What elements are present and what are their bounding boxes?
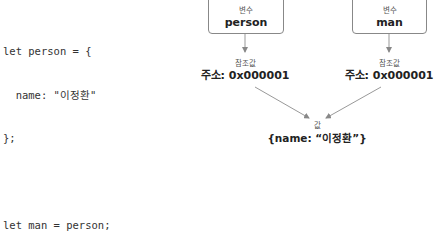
value-content: {name: “이정환”} [262, 131, 372, 145]
reference-label: 참조값 [190, 59, 300, 69]
code-line: let man = person; [3, 218, 110, 233]
arrow-ref1-to-value [255, 87, 309, 118]
reference-person: 참조값 주소: 0x000001 [190, 59, 300, 83]
reference-label: 참조값 [334, 59, 438, 69]
variable-label: 변수 [353, 6, 426, 16]
variable-name: man [353, 16, 426, 30]
variable-box-person: 변수 person [208, 0, 284, 34]
variable-name: person [209, 16, 283, 30]
reference-address: 주소: 0x000001 [334, 69, 438, 83]
value-label: 값 [262, 121, 372, 131]
variable-box-man: 변수 man [352, 0, 427, 34]
reference-address: 주소: 0x000001 [190, 69, 300, 83]
value-node: 값 {name: “이정환”} [262, 121, 372, 145]
variable-label: 변수 [209, 6, 283, 16]
code-line [3, 175, 110, 190]
reference-man: 참조값 주소: 0x000001 [334, 59, 438, 83]
arrow-ref2-to-value [326, 87, 381, 118]
